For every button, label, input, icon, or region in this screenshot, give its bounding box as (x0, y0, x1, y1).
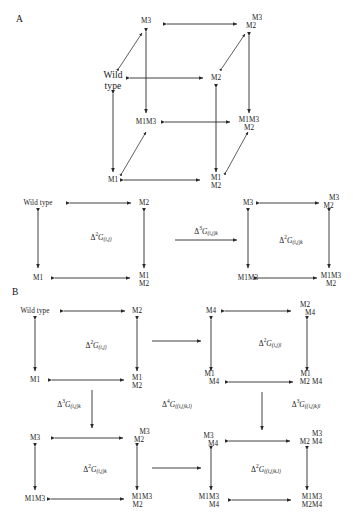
a-square-left-node-tl: Wild type (23, 199, 52, 207)
b-right-link-energy-label: Δ3G((i,j)k)l (292, 400, 321, 409)
cube-node-back-top-left: M3 (141, 17, 151, 25)
a-square-right-node-bl: M1M3 (238, 274, 258, 282)
cube-node-front-top-right: M2 (211, 74, 221, 82)
b-square-tr-node-br: M1 M2 M4 (300, 370, 322, 386)
a-square-left-node-br: M1 M2 (139, 272, 149, 288)
b-square-tl-node-tr: M2 (132, 307, 142, 315)
cube-node-front-bottom-left: M1 (108, 176, 118, 184)
cube-node-back-bottom-left: M1M3 (136, 118, 156, 126)
b-square-bl-node-br: M1M3 M2 (132, 493, 152, 509)
thermodynamic-mutant-cycle-figure: A M3 M3 M2 Wild type M2 M1M3 M1M3 M2 M1 … (0, 0, 353, 525)
b-square-tr-energy-label: Δ2G(i,j)l (259, 339, 282, 348)
cube-node-front-bottom-right: M1 M2 (211, 174, 221, 190)
b-square-tl-node-tl: Wild type (20, 307, 49, 315)
a-square-right-node-br: M1M3 M2 (321, 272, 341, 288)
b-square-br-energy-label: Δ2G((i,j)k,l) (251, 465, 281, 474)
b-square-bl-energy-label: Δ2G(i,j)k (83, 465, 106, 474)
a-link-energy-label: Δ3G(i,j)k (194, 227, 217, 236)
b-square-br-node-bl: M1M3 M4 (209, 493, 219, 509)
b-square-bl-node-tl: M3 (30, 434, 40, 442)
b-square-tl-energy-label: Δ2G(i,j) (85, 341, 106, 350)
b-square-tr-node-bl: M1 M4 (209, 370, 219, 386)
panel-letter-b: B (12, 287, 18, 297)
b-square-tl-node-br: M1 M2 (132, 374, 142, 390)
cube-node-front-top-left: Wild type (103, 70, 122, 91)
a-square-left-node-tr: M2 (139, 199, 149, 207)
b-square-br-node-tl: M3 M4 (208, 432, 218, 448)
b-left-link-energy-label: Δ3G(i,j)k (57, 400, 80, 409)
b-square-bl-node-bl: M1M3 (25, 495, 45, 503)
cube-node-back-top-right: M3 M2 (252, 14, 262, 30)
a-square-left-node-bl: M1 (33, 274, 43, 282)
a-square-right-energy-label: Δ2G(i,j)k (279, 236, 302, 245)
b-square-tr-node-tl: M4 (206, 307, 216, 315)
b-square-tr-node-tr: M2 M4 (305, 301, 315, 317)
arrow-layer (0, 0, 353, 525)
a-square-left-energy-label: Δ2G(i,j) (90, 233, 111, 242)
cube-node-back-bottom-right: M1M3 M2 (239, 116, 259, 132)
a-square-right-node-tr: M3 M2 (329, 194, 339, 210)
b-center-link-energy-label: Δ4G((i,j)k,l) (162, 400, 192, 409)
b-square-bl-node-tr: M3 M2 (128, 428, 149, 444)
b-square-br-node-br: M1M3 M2M4 (302, 493, 322, 509)
b-square-br-node-tr: M3 M2 M4 (300, 430, 322, 446)
panel-letter-a: A (16, 14, 23, 24)
a-square-right-node-tl: M3 (243, 199, 253, 207)
b-square-tl-node-bl: M1 (30, 376, 40, 384)
